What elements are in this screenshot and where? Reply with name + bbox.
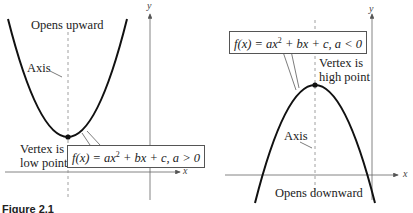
left-vertex-point xyxy=(65,134,70,139)
left-vertex-label-line1: Vertex is xyxy=(20,142,64,156)
left-axis-label: Axis xyxy=(27,61,51,75)
right-opens-label: Opens downward xyxy=(275,186,363,200)
right-vertex-label: Vertex is high point xyxy=(319,56,370,84)
right-vertex-label-line2: high point xyxy=(319,70,370,84)
right-equation-suffix: + bx + c, a < 0 xyxy=(282,37,362,51)
left-axis-leader xyxy=(50,71,62,77)
left-x-axis-label: x xyxy=(183,165,187,176)
left-vertex-label-line2: low point xyxy=(20,156,64,170)
left-y-axis-label: y xyxy=(147,0,151,11)
left-graph xyxy=(5,14,180,200)
figure-caption: Figure 2.1 xyxy=(2,203,54,213)
right-x-axis-label: x xyxy=(403,168,407,179)
left-vertex-label: Vertex is low point xyxy=(20,142,64,170)
right-vertex-label-line1: Vertex is xyxy=(319,56,370,70)
left-equation-prefix: f(x) = ax xyxy=(72,151,116,165)
right-equation-prefix: f(x) = ax xyxy=(234,37,278,51)
left-opens-label: Opens upward xyxy=(31,18,104,32)
right-vertex-point xyxy=(312,82,317,87)
right-equation-box: f(x) = ax2 + bx + c, a < 0 xyxy=(229,31,367,54)
left-equation-suffix: + bx + c, a > 0 xyxy=(120,151,200,165)
right-y-axis-label: y xyxy=(369,3,373,14)
right-axis-label: Axis xyxy=(284,129,308,143)
left-eq-leader-1 xyxy=(82,133,90,145)
left-parabola-curve xyxy=(8,19,127,137)
